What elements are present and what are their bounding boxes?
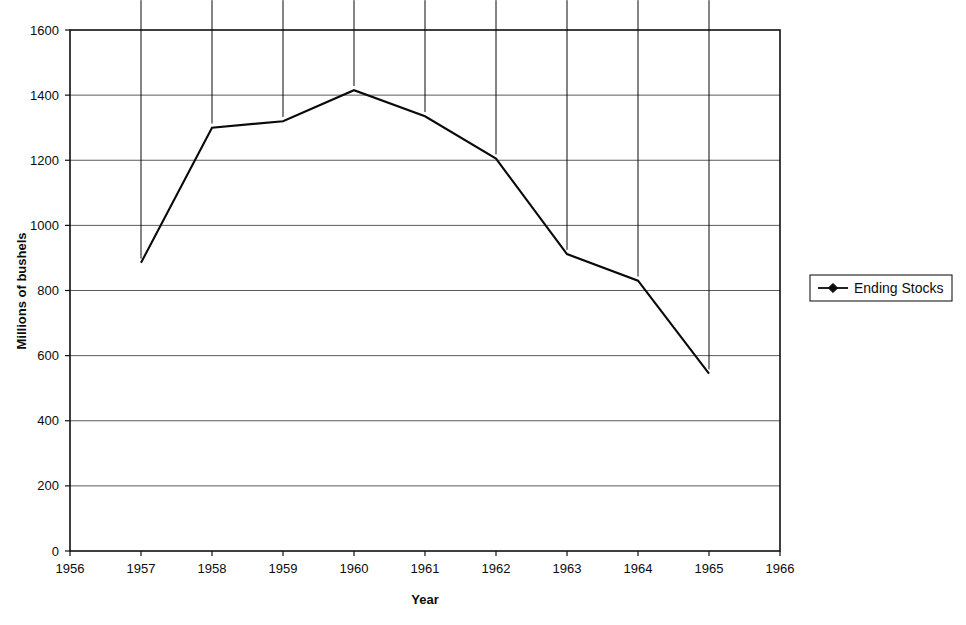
y-tick-label: 200	[37, 478, 59, 493]
x-tick-label: 1961	[411, 561, 440, 576]
chart-canvas: 02004006008001000120014001600 1956195719…	[0, 0, 966, 625]
y-axis-title: Millions of bushels	[14, 232, 29, 349]
x-tick-label: 1962	[482, 561, 511, 576]
x-tick-label: 1956	[56, 561, 85, 576]
chart-legend[interactable]: Ending Stocks	[810, 275, 952, 301]
x-tick-label: 1957	[127, 561, 156, 576]
y-tick-label: 800	[37, 283, 59, 298]
y-tick-label: 1600	[30, 23, 59, 38]
y-tick-label: 400	[37, 413, 59, 428]
x-tick-label: 1966	[766, 561, 795, 576]
y-tick-label: 0	[52, 544, 59, 559]
y-tick-label: 1200	[30, 153, 59, 168]
x-axis-title: Year	[411, 592, 438, 607]
x-tick-label: 1958	[198, 561, 227, 576]
x-tick-label: 1963	[553, 561, 582, 576]
y-tick-label: 1400	[30, 88, 59, 103]
chart-background	[0, 0, 966, 625]
x-tick-label: 1959	[269, 561, 298, 576]
legend-entry-label: Ending Stocks	[854, 280, 944, 296]
y-tick-label: 600	[37, 348, 59, 363]
y-tick-label: 1000	[30, 218, 59, 233]
x-tick-label: 1965	[695, 561, 724, 576]
x-tick-label: 1960	[340, 561, 369, 576]
x-tick-label: 1964	[624, 561, 653, 576]
line-chart-figure: 02004006008001000120014001600 1956195719…	[0, 0, 966, 625]
